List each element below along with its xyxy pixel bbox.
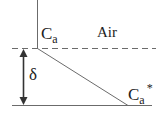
top-concentration-subscript: a — [52, 32, 57, 46]
concentration-gradient-line — [38, 49, 129, 106]
bottom-concentration-subscript: a — [139, 93, 144, 107]
top-concentration-symbol: C — [41, 24, 52, 43]
thickness-double-arrow-icon — [20, 49, 28, 105]
bottom-concentration-superscript: * — [147, 81, 153, 95]
thickness-label: δ — [29, 66, 37, 83]
bottom-concentration-label: Ca* — [128, 86, 153, 103]
bottom-concentration-symbol: C — [128, 85, 139, 104]
top-concentration-label: Ca — [41, 25, 58, 42]
air-region-label: Air — [97, 25, 117, 40]
